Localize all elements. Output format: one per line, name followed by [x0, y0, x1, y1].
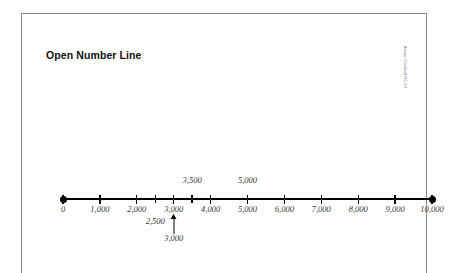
- worksheet-page: Open Number Line Answer Overhead MC 3.9 …: [21, 13, 427, 273]
- tick-major-1000: [99, 195, 100, 204]
- axis-label-8000: 8,000: [349, 204, 368, 214]
- tick-major-3000: [173, 195, 174, 204]
- arrow-shaft: [173, 218, 174, 234]
- tick-minor-3500: [191, 195, 192, 203]
- axis-label-4000: 4,000: [201, 204, 220, 214]
- axis-label-2000: 2,000: [127, 204, 146, 214]
- attribution-text: Answer Overhead MC 3.9: [403, 46, 407, 116]
- axis-label-6000: 6,000: [275, 204, 294, 214]
- tick-minor-2500: [155, 195, 156, 203]
- annotation-above-3500: 3,500: [183, 175, 202, 185]
- axis-label-10000: 10,000: [420, 204, 443, 214]
- tick-major-6000: [284, 195, 285, 204]
- axis-label-0: 0: [61, 204, 65, 214]
- axis-label-5000: 5,000: [238, 204, 257, 214]
- tick-major-8000: [358, 195, 359, 204]
- page-title: Open Number Line: [46, 49, 142, 61]
- tick-major-0: [62, 195, 63, 204]
- axis-label-1000: 1,000: [90, 204, 109, 214]
- tick-major-4000: [210, 195, 211, 204]
- tick-major-5000: [247, 195, 248, 204]
- annotation-below-2500: 2,500: [146, 216, 165, 226]
- tick-major-10000: [431, 195, 432, 204]
- tick-major-2000: [136, 195, 137, 204]
- arrow-up-icon: [169, 214, 178, 234]
- axis-label-3000: 3,000: [164, 204, 183, 214]
- tick-major-7000: [321, 195, 322, 204]
- annotation-above-5000: 5,000: [238, 175, 257, 185]
- tick-major-9000: [394, 195, 395, 204]
- annotation-below-3000: 3,000: [164, 233, 183, 243]
- axis-label-9000: 9,000: [386, 204, 405, 214]
- axis-label-7000: 7,000: [312, 204, 331, 214]
